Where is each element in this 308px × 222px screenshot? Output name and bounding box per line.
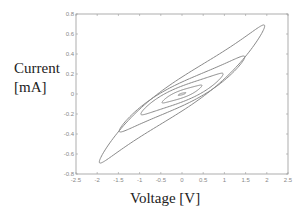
x-tick-label: -1	[137, 177, 143, 183]
x-tick-label: 2	[265, 177, 269, 183]
hysteresis-loop	[162, 85, 202, 103]
y-tick-label: 0.4	[66, 51, 75, 57]
y-tick-label: -0.4	[64, 131, 75, 137]
y-tick-label: 0.6	[66, 31, 75, 37]
hysteresis-loop	[119, 56, 245, 132]
x-tick-label: 1.5	[241, 177, 250, 183]
hysteresis-loops	[99, 25, 264, 163]
x-tick-label: -1.5	[113, 177, 124, 183]
x-axis-label: Voltage [V]	[130, 190, 200, 207]
chart: -2.5-2-1.5-1-0.500.511.522.50.80.60.40.2…	[0, 0, 308, 222]
y-tick-label: -0.6	[64, 151, 75, 157]
y-tick-label: 0.2	[66, 71, 75, 77]
x-tick-label: 0	[180, 177, 184, 183]
y-axis-label: Current [mA]	[14, 59, 60, 97]
y-tick-label: 0	[71, 91, 75, 97]
axis-ticks: -2.5-2-1.5-1-0.500.511.522.50.80.60.40.2…	[64, 11, 293, 183]
x-tick-label: 1	[223, 177, 227, 183]
y-axis-label-line2: [mA]	[14, 78, 60, 97]
x-tick-label: -2.5	[71, 177, 82, 183]
hysteresis-loop	[178, 93, 186, 96]
y-tick-label: 0.8	[66, 11, 75, 17]
y-tick-label: -0.2	[64, 111, 75, 117]
x-tick-label: -2	[95, 177, 101, 183]
x-tick-label: 2.5	[284, 177, 293, 183]
x-tick-label: -0.5	[156, 177, 167, 183]
plot-frame	[76, 14, 288, 174]
y-tick-label: -0.8	[64, 171, 75, 177]
x-tick-label: 0.5	[199, 177, 208, 183]
hysteresis-loop	[141, 73, 223, 115]
y-axis-label-line1: Current	[14, 59, 60, 78]
hysteresis-loop	[99, 25, 264, 163]
